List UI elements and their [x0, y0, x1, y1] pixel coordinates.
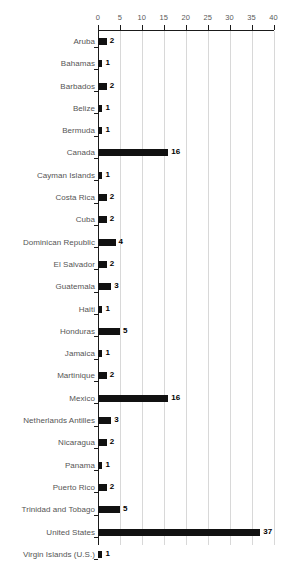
bar-row: Honduras5 — [0, 321, 288, 343]
bar — [98, 529, 260, 536]
bar-row: Dominican Republic4 — [0, 232, 288, 254]
bar-row: Puerto Rico2 — [0, 477, 288, 499]
bar-row: Cuba2 — [0, 209, 288, 231]
bar-value-label: 2 — [110, 191, 114, 202]
category-label: Bahamas — [61, 58, 95, 69]
y-tick-mark — [94, 559, 98, 560]
bar-value-label: 1 — [105, 347, 109, 358]
bar-value-label: 37 — [263, 526, 272, 537]
bar — [98, 395, 168, 402]
bar-value-label: 5 — [123, 325, 127, 336]
bar-rows: Aruba2Bahamas1Barbados2Belize1Bermuda1Ca… — [0, 31, 288, 564]
bar — [98, 551, 102, 558]
category-label: Netherlands Antilles — [23, 415, 95, 426]
y-tick-mark — [94, 403, 98, 404]
bar-value-label: 4 — [119, 236, 123, 247]
x-tick-mark-5 — [120, 25, 121, 30]
bar-row: Nicaragua2 — [0, 432, 288, 454]
bar-row: Bahamas1 — [0, 53, 288, 75]
bar — [98, 306, 102, 313]
category-label: Haiti — [79, 304, 95, 315]
bar-row: Haiti1 — [0, 299, 288, 321]
bar-value-label: 2 — [110, 213, 114, 224]
bar-row: Mexico16 — [0, 388, 288, 410]
x-tick-mark-15 — [164, 25, 165, 30]
bar-row: Virgin Islands (U.S.)1 — [0, 544, 288, 564]
bar — [98, 194, 107, 201]
bar-value-label: 1 — [105, 459, 109, 470]
y-tick-mark — [94, 515, 98, 516]
y-tick-mark — [94, 113, 98, 114]
y-tick-mark — [94, 203, 98, 204]
bar-value-label: 1 — [105, 169, 109, 180]
bar-value-label: 2 — [110, 258, 114, 269]
x-tick-mark-30 — [230, 25, 231, 30]
category-label: Dominican Republic — [23, 237, 95, 248]
y-tick-mark — [94, 537, 98, 538]
x-tick-mark-40 — [274, 25, 275, 30]
category-label: Puerto Rico — [53, 482, 95, 493]
y-tick-mark — [94, 180, 98, 181]
category-label: Mexico — [69, 393, 95, 404]
bar-row: Belize1 — [0, 98, 288, 120]
category-label: Costa Rica — [55, 192, 95, 203]
category-label: Bermuda — [62, 125, 95, 136]
x-tick-mark-20 — [186, 25, 187, 30]
bar-value-label: 2 — [110, 436, 114, 447]
bar — [98, 283, 111, 290]
y-tick-mark — [94, 136, 98, 137]
category-label: Cayman Islands — [37, 170, 95, 181]
bar-row: Cayman Islands1 — [0, 165, 288, 187]
bar — [98, 105, 102, 112]
y-tick-mark — [94, 381, 98, 382]
bar-value-label: 1 — [105, 57, 109, 68]
bar-value-label: 1 — [105, 548, 109, 559]
x-tick-label-30: 30 — [225, 13, 234, 23]
category-label: Guatemala — [55, 281, 95, 292]
bar — [98, 60, 102, 67]
y-tick-mark — [94, 448, 98, 449]
bar — [98, 38, 107, 45]
x-tick-mark-10 — [142, 25, 143, 30]
category-label: El Salvador — [54, 259, 95, 270]
bar-row: Aruba2 — [0, 31, 288, 53]
category-label: Panama — [65, 460, 95, 471]
x-tick-mark-0 — [98, 25, 99, 30]
category-label: Jamaica — [65, 348, 95, 359]
bar — [98, 350, 102, 357]
y-tick-mark — [94, 336, 98, 337]
bar-value-label: 3 — [114, 280, 118, 291]
x-tick-label-5: 5 — [118, 13, 122, 23]
y-tick-mark — [94, 269, 98, 270]
x-tick-label-25: 25 — [203, 13, 212, 23]
y-tick-mark — [94, 225, 98, 226]
category-label: Aruba — [73, 36, 95, 47]
y-tick-mark — [94, 47, 98, 48]
bar — [98, 417, 111, 424]
y-tick-mark — [94, 247, 98, 248]
category-label: Honduras — [60, 326, 95, 337]
y-tick-mark — [94, 158, 98, 159]
bar — [98, 462, 102, 469]
bar-row: United States37 — [0, 522, 288, 544]
bar — [98, 239, 116, 246]
bar-value-label: 5 — [123, 503, 127, 514]
bar — [98, 328, 120, 335]
y-tick-mark — [94, 426, 98, 427]
category-label: Virgin Islands (U.S.) — [23, 549, 95, 560]
bar — [98, 172, 102, 179]
category-label: United States — [46, 527, 95, 538]
bar-row: Guatemala3 — [0, 276, 288, 298]
bar-value-label: 1 — [105, 102, 109, 113]
x-tick-label-40: 40 — [269, 13, 278, 23]
bar-value-label: 2 — [110, 80, 114, 91]
bar-value-label: 3 — [114, 414, 118, 425]
category-label: Belize — [73, 103, 95, 114]
x-tick-label-0: 0 — [96, 13, 100, 23]
bar-row: Canada16 — [0, 142, 288, 164]
x-axis-tick-labels: 0510152025303540 — [0, 13, 288, 25]
bar-row: Trinidad and Tobago5 — [0, 499, 288, 521]
x-tick-label-35: 35 — [247, 13, 256, 23]
category-label: Martinique — [57, 370, 95, 381]
